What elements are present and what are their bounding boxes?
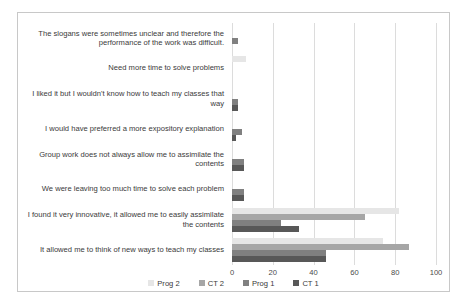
bar-ct-1 bbox=[232, 256, 326, 262]
bar-ct-1 bbox=[232, 135, 236, 141]
bar-group bbox=[232, 84, 436, 114]
legend-label: CT 1 bbox=[302, 279, 318, 288]
bar-ct-1 bbox=[232, 165, 244, 171]
legend-swatch-icon bbox=[148, 280, 154, 286]
plot-area bbox=[232, 23, 436, 265]
legend-swatch-icon bbox=[199, 280, 205, 286]
category-label: Need more time to solve problems bbox=[20, 63, 224, 73]
category-label: Group work does not always allow me to a… bbox=[20, 150, 224, 169]
category-label: I found it very innovative, it allowed m… bbox=[20, 210, 224, 229]
legend-item-ct-1[interactable]: CT 1 bbox=[293, 279, 318, 288]
bar-group bbox=[232, 235, 436, 265]
bar-ct-1 bbox=[232, 226, 299, 232]
bar-group bbox=[232, 53, 436, 83]
bar-group bbox=[232, 174, 436, 204]
legend-item-prog-1[interactable]: Prog 1 bbox=[243, 279, 274, 288]
category-axis-labels: The slogans were sometimes unclear and t… bbox=[24, 23, 228, 265]
category-label: I would have preferred a more expository… bbox=[20, 124, 224, 134]
gridline-100 bbox=[436, 23, 437, 265]
category-label: The slogans were sometimes unclear and t… bbox=[20, 29, 224, 48]
bar-ct-1 bbox=[232, 195, 244, 201]
category-label: We were leaving too much time to solve e… bbox=[20, 184, 224, 194]
legend-label: Prog 1 bbox=[252, 279, 274, 288]
bar-group bbox=[232, 205, 436, 235]
bar-group bbox=[232, 144, 436, 174]
legend-label: CT 2 bbox=[208, 279, 224, 288]
legend-swatch-icon bbox=[243, 280, 249, 286]
category-label: I liked it but I wouldn't know how to te… bbox=[20, 89, 224, 108]
bar-group bbox=[232, 114, 436, 144]
bar-group bbox=[232, 23, 436, 53]
bar-ct-1 bbox=[232, 105, 238, 111]
legend-item-prog-2[interactable]: Prog 2 bbox=[148, 279, 179, 288]
bar-prog-2 bbox=[232, 56, 246, 62]
legend-item-ct-2[interactable]: CT 2 bbox=[199, 279, 224, 288]
category-label: It allowed me to think of new ways to te… bbox=[20, 245, 224, 255]
legend-swatch-icon bbox=[293, 280, 299, 286]
bar-prog-1 bbox=[232, 38, 238, 44]
legend-label: Prog 2 bbox=[157, 279, 179, 288]
chart-legend: Prog 2CT 2Prog 1CT 1 bbox=[18, 275, 449, 291]
chart-container: The slogans were sometimes unclear and t… bbox=[17, 12, 450, 292]
